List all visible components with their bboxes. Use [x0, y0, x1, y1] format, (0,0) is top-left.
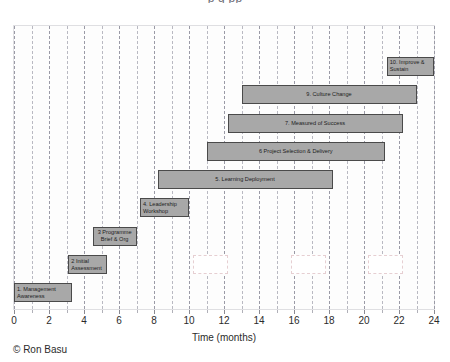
gridline-month-13 [242, 26, 243, 309]
gridline-month-14 [259, 26, 260, 309]
gridline-month-8 [154, 26, 155, 309]
x-minor-tick-13 [242, 310, 243, 313]
gridline-month-0 [14, 26, 15, 309]
task-bar-3[interactable]: 3 Programme Brief & Org [93, 227, 137, 246]
gridline-month-20 [364, 26, 365, 309]
gridline-month-1 [32, 26, 33, 309]
gantt-chart-figure: p g pp 1. Management Awareness2 Initial … [0, 0, 450, 362]
x-tick-label-22: 22 [393, 315, 404, 326]
x-tick-16 [294, 310, 295, 314]
task-bar-9[interactable]: 10. Improve & Sustain [387, 57, 434, 76]
x-tick-12 [224, 310, 225, 314]
ghost-box-1 [193, 255, 228, 274]
x-minor-tick-1 [32, 310, 33, 313]
x-tick-label-6: 6 [116, 315, 122, 326]
x-tick-label-18: 18 [323, 315, 334, 326]
x-tick-label-2: 2 [46, 315, 52, 326]
x-minor-tick-21 [382, 310, 383, 313]
x-tick-24 [434, 310, 435, 314]
task-bar-2[interactable]: 2 Initial Assessment [68, 255, 107, 274]
x-tick-label-8: 8 [151, 315, 157, 326]
task-bar-6[interactable]: 6 Project Selection & Delivery [207, 142, 386, 161]
x-minor-tick-15 [277, 310, 278, 313]
x-tick-18 [329, 310, 330, 314]
gridline-month-18 [329, 26, 330, 309]
x-axis-label: Time (months) [13, 332, 435, 343]
task-bar-4[interactable]: 4. Leadership Workshop [140, 198, 189, 217]
x-tick-6 [119, 310, 120, 314]
x-tick-20 [364, 310, 365, 314]
x-minor-tick-17 [312, 310, 313, 313]
x-minor-tick-5 [102, 310, 103, 313]
gridline-month-2 [49, 26, 50, 309]
x-minor-tick-3 [67, 310, 68, 313]
clipped-title: p g pp [0, 0, 450, 3]
x-tick-label-14: 14 [253, 315, 264, 326]
gridline-month-15 [277, 26, 278, 309]
x-axis: 024681012141618202224 Time (months) [13, 310, 435, 362]
plot-area: 1. Management Awareness2 Initial Assessm… [13, 25, 435, 310]
x-tick-label-12: 12 [218, 315, 229, 326]
x-minor-tick-23 [417, 310, 418, 313]
ghost-box-2 [291, 255, 326, 274]
x-tick-2 [49, 310, 50, 314]
x-tick-8 [154, 310, 155, 314]
task-bar-7[interactable]: 7. Measured of Success [228, 114, 403, 133]
gridline-month-7 [137, 26, 138, 309]
x-minor-tick-9 [172, 310, 173, 313]
x-minor-tick-11 [207, 310, 208, 313]
x-tick-label-16: 16 [288, 315, 299, 326]
x-minor-tick-7 [137, 310, 138, 313]
x-tick-4 [84, 310, 85, 314]
gridline-month-6 [119, 26, 120, 309]
task-bar-5[interactable]: 5. Learning Deployment [158, 170, 333, 189]
task-bar-1[interactable]: 1. Management Awareness [14, 283, 72, 302]
x-tick-label-24: 24 [428, 315, 439, 326]
copyright-notice: © Ron Basu [13, 344, 67, 355]
x-tick-22 [399, 310, 400, 314]
task-bar-8[interactable]: 9. Culture Change [242, 85, 417, 104]
x-tick-label-20: 20 [358, 315, 369, 326]
gridline-month-10 [189, 26, 190, 309]
x-tick-10 [189, 310, 190, 314]
gridline-month-24 [434, 26, 435, 309]
x-tick-label-4: 4 [81, 315, 87, 326]
x-minor-tick-19 [347, 310, 348, 313]
x-tick-label-0: 0 [11, 315, 17, 326]
x-tick-0 [14, 310, 15, 314]
x-tick-label-10: 10 [183, 315, 194, 326]
gridline-month-19 [347, 26, 348, 309]
x-tick-14 [259, 310, 260, 314]
gridline-month-9 [172, 26, 173, 309]
ghost-box-3 [368, 255, 403, 274]
